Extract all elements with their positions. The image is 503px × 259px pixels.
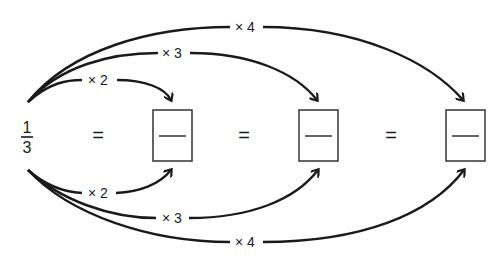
- start-fraction: 1 3: [21, 119, 33, 156]
- equals-sign-1: =: [92, 124, 104, 146]
- top-label-x2: × 2: [88, 72, 108, 88]
- top-arrow-x4: [28, 27, 463, 102]
- equals-sign-3: =: [385, 124, 397, 146]
- equivalent-fractions-diagram: × 2 × 3 × 4 × 2 × 3 × 4 1 3 = = =: [0, 0, 503, 259]
- equals-sign-2: =: [238, 124, 250, 146]
- start-denominator: 3: [23, 139, 32, 156]
- answer-box-1[interactable]: [153, 110, 192, 161]
- top-label-x3: × 3: [162, 45, 182, 61]
- top-label-x4: × 4: [235, 19, 255, 35]
- bottom-label-x2: × 2: [88, 185, 108, 201]
- bottom-arrow-x4: [28, 170, 464, 242]
- bottom-label-x4: × 4: [235, 234, 255, 250]
- bottom-label-x3: × 3: [162, 210, 182, 226]
- answer-box-3[interactable]: [446, 110, 485, 161]
- answer-box-2[interactable]: [299, 110, 338, 161]
- start-numerator: 1: [23, 119, 32, 136]
